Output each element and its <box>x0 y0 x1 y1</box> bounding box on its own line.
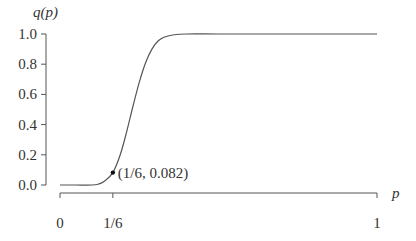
y-tick-label: 1.0 <box>18 26 37 42</box>
x-tick-label: 1/6 <box>103 215 123 231</box>
annotation-label: (1/6, 0.082) <box>118 165 188 182</box>
point-marker <box>111 170 115 174</box>
chart: 0.00.20.40.60.81.0 q(p) 01/61 p (1/6, 0.… <box>0 0 416 241</box>
x-axis-label: p <box>391 185 400 201</box>
y-tick-label: 0.4 <box>18 117 37 133</box>
x-axis: 01/61 p <box>56 185 400 231</box>
annotation-point: (1/6, 0.082) <box>111 165 189 182</box>
y-tick-label: 0.2 <box>18 147 37 163</box>
x-tick-label: 0 <box>56 215 64 231</box>
y-tick-label: 0.8 <box>18 56 37 72</box>
y-tick-label: 0.0 <box>18 177 37 193</box>
y-axis: 0.00.20.40.60.81.0 q(p) <box>18 4 58 193</box>
y-tick-label: 0.6 <box>18 86 37 102</box>
x-tick-label: 1 <box>373 215 381 231</box>
q-curve <box>60 34 377 185</box>
y-axis-label: q(p) <box>33 4 58 21</box>
